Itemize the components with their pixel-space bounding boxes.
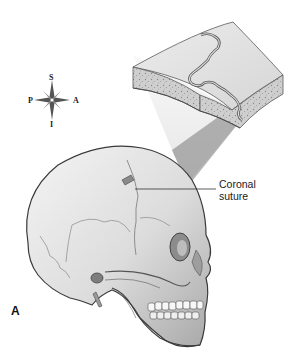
suture-inset-block bbox=[133, 22, 283, 128]
compass-label-inferior: I bbox=[50, 120, 53, 129]
callout-line-2: suture bbox=[219, 190, 256, 202]
compass-label-anterior: A bbox=[73, 96, 79, 105]
compass-label-superior: S bbox=[49, 73, 53, 82]
coronal-suture-label: Coronal suture bbox=[219, 178, 256, 202]
compass-label-posterior: P bbox=[28, 96, 33, 105]
panel-label: A bbox=[11, 304, 20, 318]
anatomy-figure: S I P A Coronal suture A bbox=[0, 0, 301, 355]
compass-rose-icon bbox=[34, 80, 70, 120]
skull-illustration bbox=[0, 0, 301, 355]
skull bbox=[27, 146, 211, 347]
callout-line-1: Coronal bbox=[219, 178, 256, 190]
